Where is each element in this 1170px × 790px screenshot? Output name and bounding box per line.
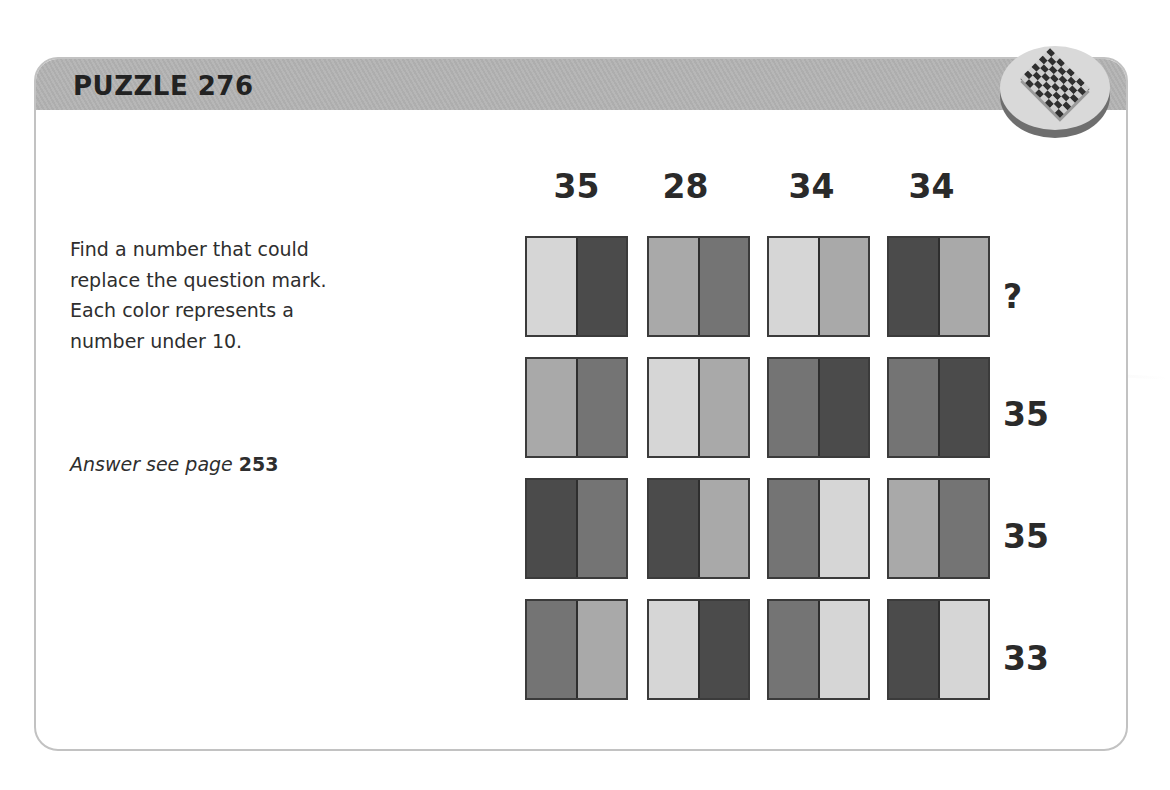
color-half-dark [940,359,989,456]
column-sum: 34 [880,167,983,206]
grid-cell [887,357,990,458]
color-half-mid [649,238,700,335]
color-half-darkmid [700,238,749,335]
puzzle-title: PUZZLE 276 [73,71,254,101]
instruction-line: number under 10. [70,326,400,357]
color-half-light [820,601,869,698]
grid-cell [767,478,870,579]
color-half-light [820,480,869,577]
color-half-dark [700,601,749,698]
color-half-light [940,601,989,698]
column-sum: 34 [760,167,863,206]
grid-cell [887,236,990,337]
color-half-dark [889,601,940,698]
row-sum: 35 [1003,517,1063,556]
column-sum: 28 [634,167,737,206]
grid-cell [887,478,990,579]
color-half-mid [820,238,869,335]
answer-prefix: Answer see page [70,453,233,475]
color-half-mid [527,359,578,456]
grid-cell [647,236,750,337]
grid-cell [525,478,628,579]
color-half-light [649,601,700,698]
answer-page: 253 [239,453,279,475]
instruction-line: Each color represents a [70,295,400,326]
color-half-darkmid [578,359,627,456]
instruction-line: replace the question mark. [70,265,400,296]
grid-cell [767,599,870,700]
row-sum: 35 [1003,395,1063,434]
color-half-dark [889,238,940,335]
instructions: Find a number that could replace the que… [70,234,400,356]
color-half-mid [889,480,940,577]
grid-cell [767,236,870,337]
color-half-light [649,359,700,456]
card-header: PUZZLE 276 [36,59,1126,110]
color-half-dark [527,480,578,577]
grid-cell [887,599,990,700]
grid-cell [525,236,628,337]
row-sum: 33 [1003,639,1063,678]
answer-reference: Answer see page 253 [70,453,279,475]
column-sum: 35 [525,167,628,206]
color-half-light [769,238,820,335]
color-half-dark [820,359,869,456]
color-half-darkmid [769,480,820,577]
color-half-light [527,238,578,335]
grid-cell [647,599,750,700]
color-half-darkmid [769,601,820,698]
color-half-dark [649,480,700,577]
grid-cell [767,357,870,458]
color-half-darkmid [940,480,989,577]
instruction-line: Find a number that could [70,234,400,265]
color-half-darkmid [578,480,627,577]
color-half-darkmid [527,601,578,698]
grid-cell [525,599,628,700]
row-sum: ? [1003,277,1063,316]
color-half-dark [578,238,627,335]
color-half-mid [700,480,749,577]
grid-cell [647,478,750,579]
color-half-mid [940,238,989,335]
checkerboard-icon [998,40,1112,140]
color-half-mid [700,359,749,456]
grid-cell [525,357,628,458]
grid-cell [647,357,750,458]
color-half-mid [578,601,627,698]
color-half-darkmid [769,359,820,456]
color-half-darkmid [889,359,940,456]
